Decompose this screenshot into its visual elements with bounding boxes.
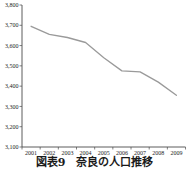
y-axis-tick-label: 3,300 [5,104,19,110]
x-axis-tick-label: 2009 [170,150,182,156]
y-axis-tick-label: 3,700 [5,22,19,28]
x-axis-tick-label: 2004 [80,150,92,156]
y-axis-tick-label: 3,400 [5,83,19,89]
x-axis-tick-label: 2007 [134,150,146,156]
population-line-chart: 3,1003,2003,3003,4003,5003,6003,7003,800… [0,0,189,157]
y-axis-tick-label: 3,500 [5,63,19,69]
y-axis-tick-label: 3,600 [5,43,19,49]
figure-caption: 図表9 奈良の人口推移 [0,156,189,169]
x-axis-tick-label: 2003 [61,150,73,156]
x-axis-tick-label: 2005 [98,150,110,156]
population-trend-line [31,26,176,95]
x-axis-tick-label: 2001 [25,150,37,156]
figure-caption-text: 図表9 奈良の人口推移 [36,156,154,169]
y-axis-tick-label: 3,100 [5,144,19,150]
figure-container: 3,1003,2003,3003,4003,5003,6003,7003,800… [0,0,189,169]
x-axis-tick-label: 2008 [152,150,164,156]
x-axis-tick-label: 2002 [43,150,55,156]
y-axis-tick-label: 3,800 [5,2,19,8]
x-axis-tick-label: 2006 [116,150,128,156]
y-axis-tick-label: 3,200 [5,124,19,130]
